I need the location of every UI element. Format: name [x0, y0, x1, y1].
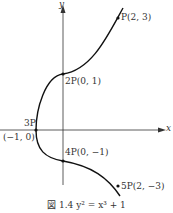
point-p-label: P(2, 3) — [121, 12, 151, 22]
point-3p-coords: (−1, 0) — [3, 132, 35, 142]
point-p — [116, 16, 119, 19]
curve — [36, 8, 123, 196]
point-5p-label: 5P(2, −3) — [121, 181, 165, 191]
point-4p-label: 4P(0, −1) — [65, 147, 109, 157]
point-4p — [61, 159, 64, 162]
point-3p-label: 3P — [24, 118, 36, 128]
x-axis-label: x — [166, 123, 171, 133]
figure-caption: 図 1.4 y² = x³ + 1 — [0, 198, 173, 211]
point-5p — [116, 184, 119, 187]
point-3p — [34, 128, 37, 131]
point-2p-label: 2P(0, 1) — [65, 76, 101, 86]
y-axis-label: y — [59, 0, 64, 9]
x-axis-arrow-icon — [158, 128, 166, 133]
